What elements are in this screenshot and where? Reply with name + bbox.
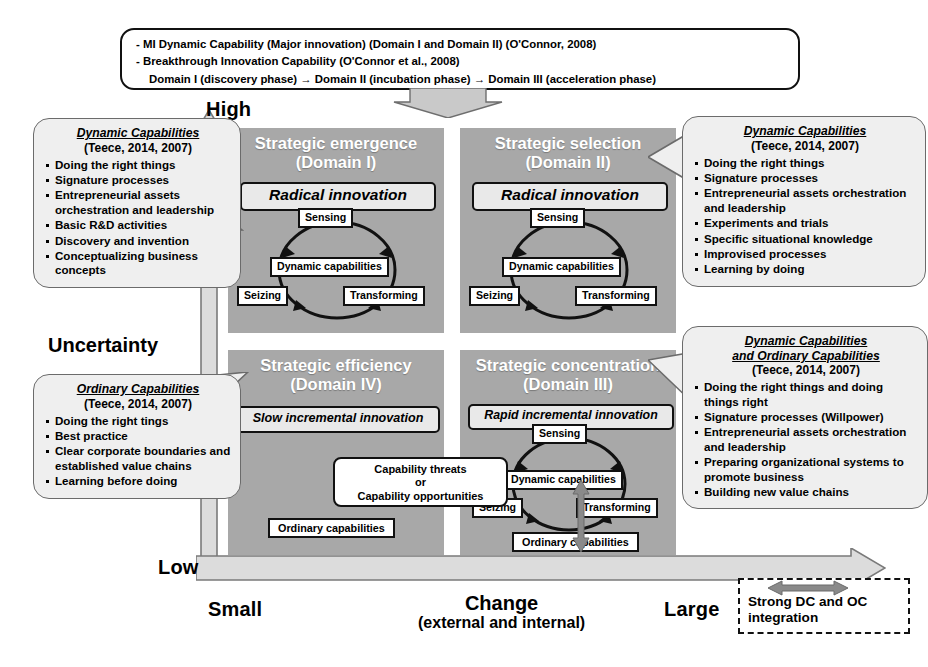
quadrant-1-innovation-banner: Radical innovation: [240, 182, 436, 211]
quadrant-3-title-main: Strategic concentration: [476, 356, 660, 374]
cycle-2-transforming: Transforming: [575, 286, 657, 306]
dc-oc-horizontal-double-arrow-icon: [768, 580, 848, 596]
list-item: Learning by doing: [694, 262, 916, 276]
top-down-arrow-icon: [392, 88, 504, 118]
callout-bl-list: Doing the right tings Best practice Clea…: [45, 414, 231, 489]
cycle-1-center: Dynamic capabilities: [270, 257, 389, 277]
cycle-3-center: Dynamic capabilities: [504, 470, 623, 490]
quadrant-4-title-sub: (Domain IV): [228, 375, 444, 394]
capability-threats-line-2: or: [335, 476, 506, 489]
quadrant-3-title-sub: (Domain III): [460, 375, 676, 394]
quadrant-4-title: Strategic efficiency (Domain IV): [228, 350, 444, 394]
quadrant-2-title: Strategic selection (Domain II): [460, 128, 676, 172]
cycle-2-center: Dynamic capabilities: [502, 257, 621, 277]
callout-dynamic-capabilities-domain-1: Dynamic Capabilities (Teece, 2014, 2007)…: [33, 118, 241, 288]
quadrant-2-innovation-banner: Radical innovation: [472, 182, 668, 211]
list-item: Entrepreneurial assets orchestration and…: [45, 188, 231, 217]
list-item: Signature processes: [45, 173, 231, 187]
quadrant-domain-2: Strategic selection (Domain II) Radical …: [460, 128, 676, 333]
dc-oc-vertical-double-arrow-icon: [572, 480, 590, 552]
list-item: Signature processes (Willpower): [694, 410, 918, 424]
axis-label-large: Large: [664, 598, 719, 621]
quadrant-1-title-sub: (Domain I): [228, 153, 444, 172]
reference-line-1: - MI Dynamic Capability (Major innovatio…: [136, 36, 786, 53]
quadrant-4-ordinary-capabilities: Ordinary capabilities: [268, 518, 395, 538]
list-item: Doing the right things: [694, 156, 916, 170]
list-item: Doing the right things: [45, 158, 231, 172]
list-item: Signature processes: [694, 171, 916, 185]
callout-dynamic-and-ordinary-capabilities-domain-3: Dynamic Capabilities and Ordinary Capabi…: [682, 326, 928, 509]
callout-tl-list: Doing the right things Signature process…: [45, 158, 231, 278]
quadrant-2-title-sub: (Domain II): [460, 153, 676, 172]
cycle-1-transforming: Transforming: [343, 286, 425, 306]
dc-oc-line-2: integration: [748, 610, 908, 626]
axis-title-uncertainty: Uncertainty: [48, 334, 158, 357]
quadrant-1-title: Strategic emergence (Domain I): [228, 128, 444, 172]
capability-threats-line-3: Capability opportunities: [335, 490, 506, 503]
quadrant-4-title-main: Strategic efficiency: [260, 356, 411, 374]
list-item: Learning before doing: [45, 474, 231, 488]
list-item: Basic R&D activities: [45, 218, 231, 232]
callout-bl-source: (Teece, 2014, 2007): [45, 397, 231, 411]
list-item: Improvised processes: [694, 247, 916, 261]
list-item: Discovery and invention: [45, 234, 231, 248]
quadrant-3-title: Strategic concentration (Domain III): [460, 350, 676, 394]
list-item: Best practice: [45, 429, 231, 443]
list-item: Building new value chains: [694, 485, 918, 499]
callout-ordinary-capabilities-domain-4: Ordinary Capabilities (Teece, 2014, 2007…: [33, 374, 241, 499]
quadrant-4-innovation-banner: Slow incremental innovation: [236, 406, 440, 433]
axis-label-small: Small: [208, 598, 262, 621]
list-item: Doing the right tings: [45, 414, 231, 428]
quadrant-2-title-main: Strategic selection: [495, 134, 642, 152]
dc-oc-line-1: Strong DC and OC: [748, 594, 908, 610]
callout-tl-source: (Teece, 2014, 2007): [45, 141, 231, 155]
callout-br-source: (Teece, 2014, 2007): [694, 363, 918, 377]
list-item: Experiments and trials: [694, 216, 916, 230]
axis-title-change: Change (external and internal): [418, 592, 585, 632]
cycle-3-sensing: Sensing: [532, 424, 587, 444]
axis-title-change-sub: (external and internal): [418, 614, 585, 632]
quadrant-domain-1: Strategic emergence (Domain I) Radical i…: [228, 128, 444, 333]
list-item: Conceptualizing business concepts: [45, 249, 231, 278]
reference-line-3: Domain I (discovery phase) → Domain II (…: [136, 71, 786, 88]
cycle-2-seizing: Seizing: [469, 286, 520, 306]
cycle-2-sensing: Sensing: [530, 208, 585, 228]
list-item: Specific situational knowledge: [694, 232, 916, 246]
cycle-1-sensing: Sensing: [298, 208, 353, 228]
axis-title-change-main: Change: [418, 592, 585, 614]
list-item: Clear corporate boundaries and establish…: [45, 444, 231, 473]
callout-tr-source: (Teece, 2014, 2007): [694, 139, 916, 153]
cycle-1-seizing: Seizing: [237, 286, 288, 306]
callout-bl-heading: Ordinary Capabilities: [45, 382, 231, 397]
callout-tr-heading: Dynamic Capabilities: [694, 124, 916, 139]
callout-dynamic-capabilities-domain-2: Dynamic Capabilities (Teece, 2014, 2007)…: [682, 116, 926, 287]
callout-tr-list: Doing the right things Signature process…: [694, 156, 916, 277]
callout-br-list: Doing the right things and doing things …: [694, 380, 918, 499]
reference-line-2: - Breakthrough Innovation Capability (O'…: [136, 53, 786, 70]
callout-br-heading: Dynamic Capabilities: [694, 334, 918, 349]
list-item: Preparing organizational systems to prom…: [694, 455, 918, 484]
callout-br-heading-2: and Ordinary Capabilities: [694, 349, 918, 364]
capability-threats-box: Capability threats or Capability opportu…: [333, 457, 508, 507]
callout-tl-heading: Dynamic Capabilities: [45, 126, 231, 141]
list-item: Entrepreneurial assets orchestration and…: [694, 186, 916, 215]
quadrant-domain-3: Strategic concentration (Domain III) Rap…: [460, 350, 676, 555]
axis-label-low: Low: [158, 556, 199, 579]
quadrant-1-title-main: Strategic emergence: [255, 134, 417, 152]
list-item: Doing the right things and doing things …: [694, 380, 918, 409]
list-item: Entrepreneurial assets orchestration and…: [694, 425, 918, 454]
quadrant-domain-4: Strategic efficiency (Domain IV) Slow in…: [228, 350, 444, 555]
capability-threats-line-1: Capability threats: [335, 463, 506, 476]
reference-note-box: - MI Dynamic Capability (Major innovatio…: [120, 28, 800, 90]
